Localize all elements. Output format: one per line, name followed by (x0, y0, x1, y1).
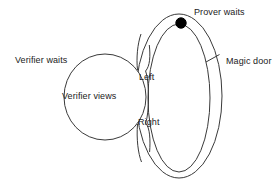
label-magic-door: Magic door (226, 56, 272, 66)
diagram-canvas: Prover waits Magic door Verifier waits V… (0, 0, 280, 185)
cave-inner-wall (148, 24, 210, 172)
cave-diagram-svg (0, 0, 280, 185)
label-right-path: Right (138, 117, 160, 127)
label-verifier-views: Verifier views (62, 91, 116, 101)
label-left-path: Left (139, 72, 154, 82)
chamber-throat-upper (146, 45, 150, 71)
label-verifier-waits: Verifier waits (15, 55, 67, 65)
label-prover-waits: Prover waits (194, 7, 245, 17)
prover-position-dot (176, 18, 186, 28)
chamber-throat-lower (146, 123, 150, 152)
